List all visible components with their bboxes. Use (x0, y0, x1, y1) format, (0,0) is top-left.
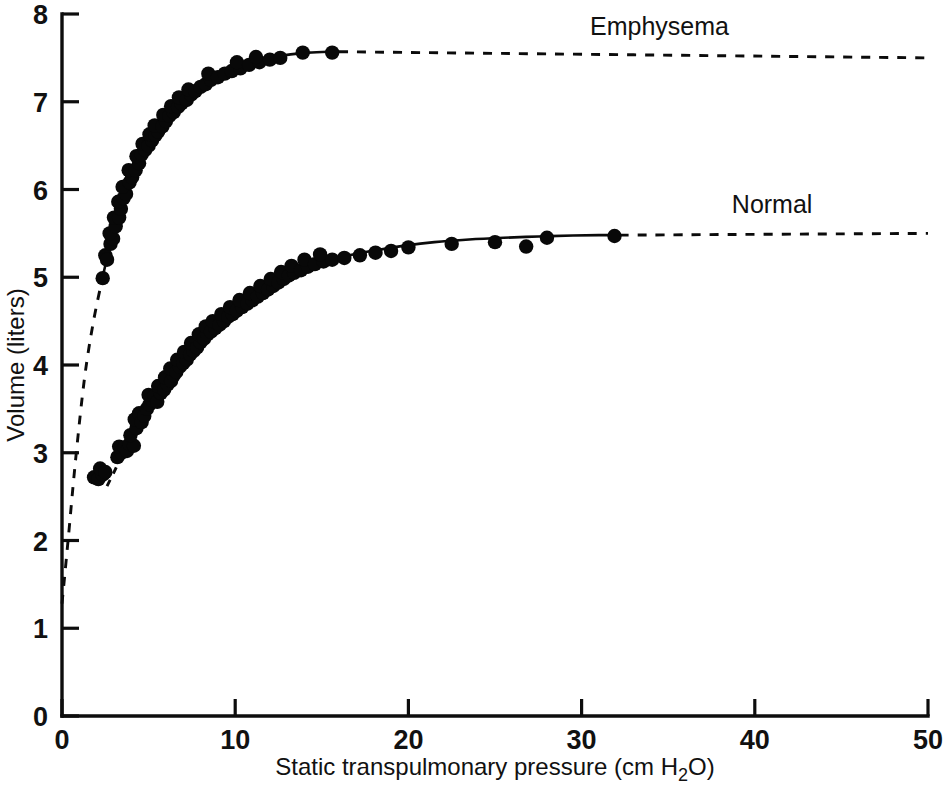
x-axis-ticks (62, 699, 928, 716)
series-annotations: EmphysemaNormal (590, 12, 812, 218)
data-point (519, 239, 533, 253)
x-tick-label: 0 (54, 725, 69, 755)
data-point (100, 253, 114, 267)
points-emphysema (96, 45, 340, 285)
y-axis-tick-labels: 012345678 (33, 0, 48, 732)
y-axis-title: Volume (liters) (2, 288, 29, 441)
x-tick-label: 20 (393, 725, 423, 755)
data-point (273, 51, 287, 65)
x-axis-tick-labels: 01020304050 (54, 725, 943, 755)
data-point (296, 45, 310, 59)
y-axis-ticks (62, 14, 79, 716)
data-point (325, 253, 339, 267)
data-points-layer (87, 45, 622, 486)
curve-dashed-low-emphysema (62, 281, 102, 604)
y-tick-label: 3 (33, 439, 48, 469)
data-point (384, 244, 398, 258)
subscript-2: 2 (678, 765, 688, 785)
data-point (337, 251, 351, 265)
y-tick-label: 6 (33, 176, 48, 206)
data-point (401, 240, 415, 254)
data-point (249, 50, 263, 64)
series-label-emphysema: Emphysema (590, 12, 729, 40)
points-normal (87, 229, 622, 486)
data-point (353, 248, 367, 262)
data-point (230, 55, 244, 69)
data-point (368, 245, 382, 259)
x-axis-title: Static transpulmonary pressure (cm H2O) (275, 753, 714, 785)
data-point (98, 465, 112, 479)
x-title-tail: O) (688, 753, 715, 780)
data-point (540, 231, 554, 245)
x-tick-label: 30 (567, 725, 597, 755)
curve-dashed-high-normal (620, 233, 928, 235)
y-tick-label: 5 (33, 263, 48, 293)
y-tick-label: 8 (33, 0, 48, 30)
data-point (488, 235, 502, 249)
data-point (96, 271, 110, 285)
series-label-normal: Normal (732, 190, 813, 218)
pressure-volume-chart: 012345678 01020304050 EmphysemaNormal St… (0, 0, 946, 787)
curve-dashed-high-emphysema (339, 52, 928, 58)
series-layer (62, 52, 928, 604)
data-point (325, 45, 339, 59)
chart-svg: 012345678 01020304050 EmphysemaNormal St… (0, 0, 946, 787)
data-point (607, 229, 621, 243)
y-tick-label: 4 (33, 351, 48, 381)
x-tick-label: 40 (740, 725, 770, 755)
y-tick-label: 0 (33, 702, 48, 732)
data-point (445, 237, 459, 251)
y-tick-label: 1 (33, 614, 48, 644)
x-tick-label: 10 (220, 725, 250, 755)
x-tick-label: 50 (913, 725, 943, 755)
axes-group (62, 14, 928, 716)
y-tick-label: 7 (33, 88, 48, 118)
y-tick-label: 2 (33, 527, 48, 557)
